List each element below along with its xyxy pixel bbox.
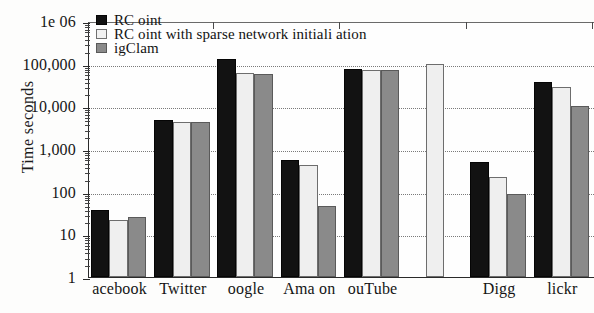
bar	[236, 73, 255, 277]
bar-group	[216, 23, 279, 277]
bar	[91, 210, 110, 277]
bar	[281, 160, 300, 277]
bar-chart-figure: Time seconds 1101001,00010,000100,0001e …	[0, 0, 594, 313]
bar	[381, 70, 400, 277]
y-axis-tick-label: 1	[0, 269, 84, 287]
bar	[534, 82, 553, 277]
bar-group	[89, 23, 152, 277]
bar-group	[405, 23, 468, 277]
bar	[552, 87, 571, 277]
bar	[254, 74, 273, 277]
bar	[128, 217, 147, 277]
bar	[489, 177, 508, 277]
legend-label: igClam	[114, 41, 159, 55]
legend-swatch-icon	[96, 15, 107, 25]
y-axis-tick-labels: 1101001,00010,000100,0001e 06	[0, 0, 84, 313]
bar	[344, 69, 363, 277]
x-axis-tick-label: ouTube	[348, 280, 398, 298]
legend-label: RC oint with sparse network initiali ati…	[114, 27, 367, 41]
plot-area	[88, 22, 594, 278]
x-axis-tick-label: Ama on	[283, 280, 335, 298]
bar-group	[532, 23, 594, 277]
bar	[299, 165, 318, 277]
y-axis-tick-label: 10,000	[0, 98, 84, 116]
bar	[154, 120, 173, 277]
x-axis-tick-label: lickr	[547, 280, 577, 298]
x-axis-tick-label: Digg	[483, 280, 516, 298]
chart-legend: RC ointRC oint with sparse network initi…	[93, 12, 370, 57]
bar-group	[342, 23, 405, 277]
y-axis-tick-label: 1e 06	[0, 13, 84, 31]
y-axis-tick-label: 100	[0, 184, 84, 202]
x-axis-tick-label: Twitter	[159, 280, 206, 298]
bar	[426, 64, 445, 277]
legend-label: RC oint	[114, 13, 162, 27]
x-axis-tick-labels: acebookTwitteroogleAma onouTubeDigglickr	[88, 280, 594, 313]
bar	[109, 220, 128, 277]
legend-swatch-icon	[96, 43, 107, 53]
bar	[507, 194, 526, 277]
x-axis-tick-label: oogle	[228, 280, 265, 298]
legend-item: RC oint with sparse network initiali ati…	[96, 27, 367, 41]
bar-group	[279, 23, 342, 277]
bar	[318, 206, 337, 277]
bar	[173, 122, 192, 277]
bar	[571, 106, 590, 277]
bar	[217, 59, 236, 277]
bar-group	[469, 23, 532, 277]
x-axis-tick-label: acebook	[92, 280, 147, 298]
y-axis-tick-label: 1,000	[0, 141, 84, 159]
bar-group	[152, 23, 215, 277]
legend-item: RC oint	[96, 13, 367, 27]
y-axis-tick-label: 100,000	[0, 56, 84, 74]
bar	[362, 70, 381, 278]
legend-swatch-icon	[96, 29, 107, 39]
bar	[470, 162, 489, 277]
y-axis-tick-label: 10	[0, 226, 84, 244]
legend-item: igClam	[96, 41, 367, 55]
bar	[191, 122, 210, 277]
